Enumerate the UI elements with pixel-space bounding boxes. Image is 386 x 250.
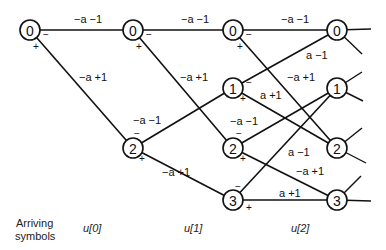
node-label: 3 — [333, 193, 341, 209]
state-node-2: 2 — [123, 138, 143, 158]
minus-sign: − — [246, 77, 252, 88]
edge-label: −a −1 — [133, 114, 161, 126]
state-node-2: 2 — [327, 138, 347, 158]
nodes: 0 0 2 0 1 2 3 0 — [20, 20, 347, 210]
state-node-1: 1 — [327, 78, 347, 98]
edge-label: a −1 — [288, 146, 310, 158]
node-label: 0 — [229, 23, 237, 39]
edge-label: −a −1 — [230, 115, 258, 127]
edge-c0n0-c1n2 — [30, 30, 133, 148]
edge-c2n3-c3n1 — [233, 88, 337, 200]
footer: Arriving Arriving symbols u[0] u[1] u[2] — [15, 217, 310, 242]
node-label: 0 — [26, 23, 34, 39]
edge-label: −a +1 — [79, 71, 107, 83]
state-node-3: 3 — [327, 190, 347, 210]
state-node-1: 1 — [223, 78, 243, 98]
node-label: 2 — [229, 141, 237, 157]
state-node-0: 0 — [20, 20, 40, 40]
edge-label: −a +1 — [180, 71, 208, 83]
state-node-2: 2 — [223, 138, 243, 158]
edge-label: −a −1 — [181, 13, 209, 25]
state-node-0: 0 — [223, 20, 243, 40]
arriving-label-line1: Arriving — [16, 217, 53, 229]
edge-label: a +1 — [279, 187, 301, 199]
edge-label: −a +1 — [287, 71, 315, 83]
plus-sign: + — [246, 202, 252, 213]
state-node-0: 0 — [123, 20, 143, 40]
minus-sign: − — [246, 29, 252, 40]
node-label: 0 — [129, 23, 137, 39]
plus-sign: + — [237, 41, 243, 52]
symbol-u1: u[1] — [184, 222, 203, 234]
node-label: 3 — [229, 193, 237, 209]
state-node-0: 0 — [327, 20, 347, 40]
edge-labels: −a −1 −a +1 −a −1 −a +1 −a −1 −a +1 −a −… — [74, 13, 328, 199]
minus-sign: − — [236, 128, 242, 139]
state-node-3: 3 — [223, 190, 243, 210]
node-label: 2 — [129, 141, 137, 157]
edge-label: a +1 — [260, 89, 282, 101]
symbol-u2: u[2] — [291, 222, 310, 234]
node-label: 2 — [333, 141, 341, 157]
symbol-u0: u[0] — [83, 222, 102, 234]
minus-sign: − — [43, 29, 49, 40]
edge-label: −a +1 — [162, 166, 190, 178]
edge-c1n0-c2n2 — [133, 30, 233, 148]
node-label: 0 — [333, 23, 341, 39]
arriving-label-line2: symbols — [15, 230, 56, 242]
edge-c2n0-c3n2 — [233, 30, 337, 148]
plus-sign: + — [33, 41, 39, 52]
edge-label: −a −1 — [281, 13, 309, 25]
edge-label: −a +1 — [296, 165, 324, 177]
edge-label: a −1 — [306, 49, 328, 61]
node-label: 1 — [229, 81, 237, 97]
minus-sign: − — [134, 128, 140, 139]
trellis-diagram: −a −1 −a +1 −a −1 −a +1 −a −1 −a +1 −a −… — [0, 0, 386, 250]
plus-sign: + — [136, 41, 142, 52]
outgoing-stubs — [337, 29, 371, 201]
minus-sign: − — [146, 29, 152, 40]
edge-label: −a −1 — [74, 13, 102, 25]
node-label: 1 — [333, 81, 341, 97]
